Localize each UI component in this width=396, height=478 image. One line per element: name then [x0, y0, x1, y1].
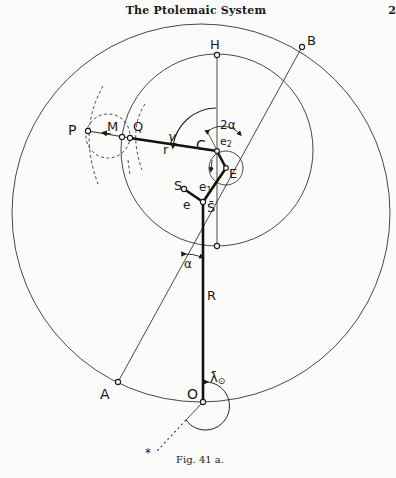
- label-h: H: [210, 37, 220, 52]
- label-gamma: γ: [168, 129, 177, 144]
- label-p: P: [68, 122, 76, 138]
- point-b: [299, 44, 304, 49]
- point-s-bar: [200, 199, 205, 204]
- label-e: E: [229, 166, 237, 181]
- label-b: B: [307, 33, 316, 48]
- label-a: A: [100, 386, 110, 402]
- point-o: [200, 399, 205, 404]
- figure-caption: Fig. 41 a.: [140, 454, 260, 465]
- arc-inner-e: [211, 160, 212, 170]
- point-p: [85, 128, 90, 133]
- dashed-arc-mid: [128, 160, 130, 175]
- outer-deferent-circle: [12, 24, 390, 402]
- label-o: O: [187, 386, 198, 402]
- label-c: C: [196, 137, 206, 153]
- arc-gamma: [173, 108, 216, 146]
- dashed-arc-left: [89, 86, 103, 184]
- point-h: [214, 52, 219, 57]
- label-e1: e1: [199, 180, 211, 195]
- point-a: [115, 379, 120, 384]
- label-e-seg: e: [183, 198, 190, 212]
- label-alpha: α: [184, 257, 192, 271]
- point-m: [119, 134, 124, 139]
- label-e2: e2: [220, 135, 232, 149]
- label-two-alpha: 2α: [220, 118, 236, 132]
- label-s: S: [174, 178, 182, 193]
- dashed-arc-right: [136, 104, 145, 170]
- point-e: [224, 166, 229, 171]
- point-bottom-inner: [214, 243, 219, 248]
- label-m: M: [107, 119, 118, 134]
- point-c: [215, 149, 220, 154]
- label-lambda: λ̄⊙: [210, 370, 225, 386]
- label-R: R: [207, 288, 216, 303]
- point-q: [127, 135, 132, 140]
- line-o-star-solid: [186, 402, 203, 420]
- line-o-star-dotted: [157, 420, 186, 451]
- label-q: Q: [133, 119, 143, 134]
- label-r: r: [163, 142, 169, 157]
- label-s-bar: S̄: [207, 200, 215, 215]
